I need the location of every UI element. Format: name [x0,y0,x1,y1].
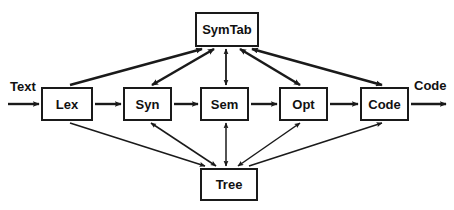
node-tree-label: Tree [216,178,243,191]
node-lex[interactable]: Lex [41,87,93,121]
compiler-structure-diagram: SymTab Lex Syn Sem Opt Code Tree Text Co… [0,0,454,210]
node-opt[interactable]: Opt [279,87,328,121]
node-code[interactable]: Code [360,87,409,121]
node-syn[interactable]: Syn [123,87,172,121]
input-label: Text [10,80,36,93]
node-lex-label: Lex [56,98,78,111]
node-symtab[interactable]: SymTab [195,12,259,47]
node-symtab-label: SymTab [202,23,252,36]
node-sem[interactable]: Sem [200,87,249,121]
node-syn-label: Syn [136,98,160,111]
node-code-label: Code [368,98,401,111]
node-opt-label: Opt [292,98,314,111]
node-tree[interactable]: Tree [200,168,258,201]
output-label: Code [414,79,447,92]
node-sem-label: Sem [211,98,238,111]
